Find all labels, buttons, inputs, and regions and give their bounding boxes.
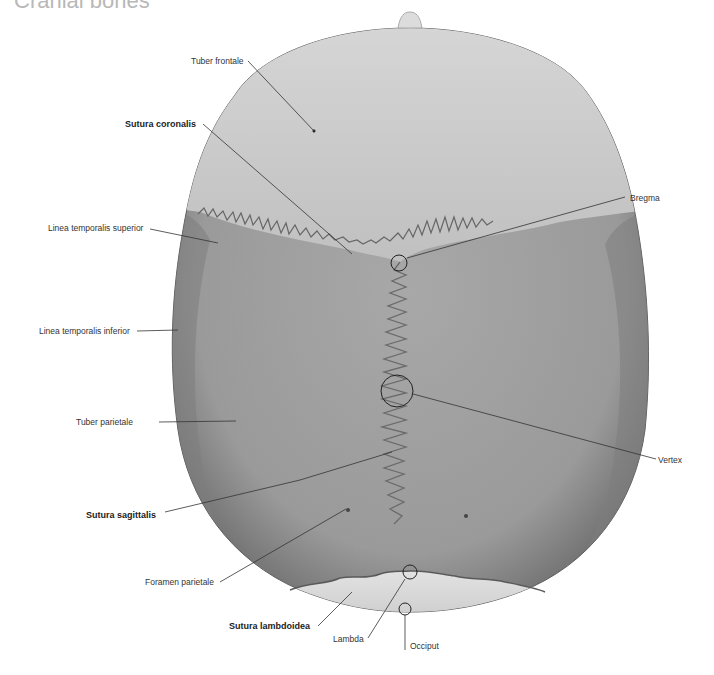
- foramen-parietale-left: [346, 508, 350, 512]
- skull-body: [150, 12, 680, 640]
- label-linea-temporalis-inferior: Linea temporalis inferior: [39, 326, 130, 336]
- label-foramen-parietale: Foramen parietale: [145, 577, 214, 587]
- label-tuber-frontale: Tuber frontale: [191, 56, 244, 66]
- label-occiput: Occiput: [410, 641, 439, 651]
- foramen-parietale-right: [464, 514, 468, 518]
- label-lambda: Lambda: [333, 634, 364, 644]
- skull-superior-view-illustration: [0, 0, 714, 675]
- label-sutura-coronalis: Sutura coronalis: [125, 119, 196, 129]
- label-vertex: Vertex: [658, 455, 682, 465]
- nasal-bone-tip: [398, 12, 422, 28]
- label-sutura-sagittalis: Sutura sagittalis: [86, 510, 156, 520]
- label-bregma: Bregma: [630, 193, 660, 203]
- label-linea-temporalis-superior: Linea temporalis superior: [48, 223, 143, 233]
- label-tuber-parietale: Tuber parietale: [76, 417, 133, 427]
- label-sutura-lambdoidea: Sutura lambdoidea: [229, 621, 310, 631]
